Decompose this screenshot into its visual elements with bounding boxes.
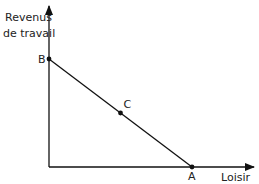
point-label-a: A — [188, 170, 196, 183]
y-axis-label-line2: de travail — [3, 27, 55, 40]
point-a — [190, 165, 195, 170]
point-c — [118, 111, 123, 116]
y-axis-label-line1: Revenus — [5, 11, 52, 24]
x-axis-label: Loisir — [221, 171, 251, 184]
point-label-b: B — [38, 53, 46, 66]
point-b — [47, 57, 52, 62]
budget-constraint-diagram: Revenus de travail Loisir BCA — [0, 0, 259, 184]
point-label-c: C — [124, 98, 132, 111]
